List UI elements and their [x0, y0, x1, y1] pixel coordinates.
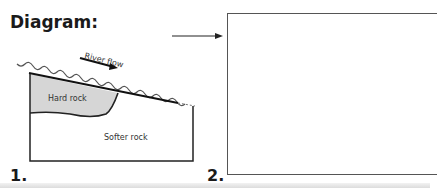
bottom-edge-shadow: [0, 183, 430, 188]
softer-rock-label: Softer rock: [104, 133, 148, 142]
transition-arrowhead: [215, 33, 223, 39]
river-flow-label: River flow: [84, 51, 125, 69]
answer-drawing-box[interactable]: [227, 13, 437, 175]
hard-rock-label: Hard rock: [48, 94, 87, 103]
